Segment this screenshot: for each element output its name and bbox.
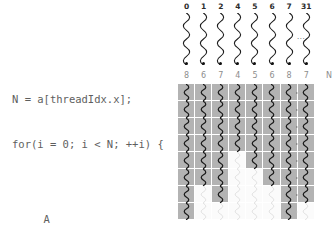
iteration-cell (178, 118, 195, 135)
iteration-cell (229, 135, 246, 152)
iteration-row (178, 203, 315, 220)
n-axis-label: N (320, 70, 335, 81)
iteration-cell (298, 169, 315, 186)
iteration-cell (246, 135, 263, 152)
iteration-row (178, 118, 315, 135)
iteration-cell (178, 186, 195, 203)
iteration-cell (195, 186, 212, 203)
iteration-cell (212, 152, 229, 169)
iteration-cell (212, 118, 229, 135)
wave-ellipsis-icon: ... (297, 34, 305, 41)
diagram-root: N = a[threadIdx.x]; for(i = 0; i < N; ++… (0, 0, 335, 233)
iteration-row (178, 152, 315, 169)
thread-strand-2 (212, 13, 229, 65)
thread-strand-5 (246, 13, 263, 65)
iteration-cell (229, 152, 246, 169)
iteration-grid (178, 84, 315, 220)
thread-strand-4 (229, 13, 246, 65)
iteration-cell (178, 101, 195, 118)
iteration-cell (246, 84, 263, 101)
iteration-cell (195, 169, 212, 186)
iteration-cell (298, 186, 315, 203)
iteration-cell (212, 203, 229, 220)
iteration-cell (281, 169, 298, 186)
iteration-cell (246, 186, 263, 203)
iteration-cell (298, 152, 315, 169)
iteration-cell (298, 203, 315, 220)
iteration-row (178, 135, 315, 152)
iteration-row (178, 101, 315, 118)
iteration-cell (212, 101, 229, 118)
iteration-cell (212, 135, 229, 152)
iteration-cell (281, 118, 298, 135)
iteration-cell (195, 84, 212, 101)
n-value-4: 4 (229, 70, 246, 81)
iteration-cell (229, 84, 246, 101)
iteration-cell (212, 84, 229, 101)
iteration-cell (263, 169, 280, 186)
code-line-1: for(i = 0; i < N; ++i) { (12, 137, 164, 152)
iteration-cell (229, 186, 246, 203)
iteration-cell (195, 203, 212, 220)
n-value-2: 7 (212, 70, 229, 81)
iteration-cell (298, 135, 315, 152)
iteration-cell (178, 169, 195, 186)
iteration-cell (263, 135, 280, 152)
iteration-cell (263, 186, 280, 203)
iteration-cell (178, 203, 195, 220)
iteration-cell (195, 101, 212, 118)
iteration-cell (263, 118, 280, 135)
iteration-cell (229, 118, 246, 135)
n-value-0: 8 (178, 70, 195, 81)
iteration-cell (281, 152, 298, 169)
n-value-31: 7 (298, 70, 315, 81)
iteration-cell (246, 152, 263, 169)
iteration-cell (298, 101, 315, 118)
iteration-cell (212, 186, 229, 203)
iteration-cell (178, 135, 195, 152)
thread-strand-0 (178, 13, 195, 65)
iteration-cell (263, 152, 280, 169)
iteration-cell (281, 203, 298, 220)
iteration-cell (281, 135, 298, 152)
n-value-1: 6 (195, 70, 212, 81)
iteration-cell (246, 169, 263, 186)
iteration-cell (195, 152, 212, 169)
iteration-row (178, 84, 315, 101)
iteration-cell (263, 203, 280, 220)
thread-n-row: 86745687 N (178, 68, 335, 82)
iteration-cell (298, 118, 315, 135)
iteration-cell (229, 169, 246, 186)
n-value-5: 5 (246, 70, 263, 81)
iteration-row (178, 169, 315, 186)
n-value-6: 6 (263, 70, 280, 81)
iteration-cell (229, 101, 246, 118)
iteration-row (178, 186, 315, 203)
iteration-cell (298, 84, 315, 101)
code-line-3: A (12, 212, 164, 227)
thread-strand-6 (263, 13, 280, 65)
thread-strand-7 (281, 13, 298, 65)
iteration-cell (178, 84, 195, 101)
code-line-0: N = a[threadIdx.x]; (12, 92, 164, 107)
code-block: N = a[threadIdx.x]; for(i = 0; i < N; ++… (12, 62, 164, 233)
iteration-cell (195, 118, 212, 135)
iteration-cell (246, 118, 263, 135)
iteration-cell (246, 203, 263, 220)
iteration-cell (178, 152, 195, 169)
iteration-cell (195, 135, 212, 152)
iteration-cell (212, 169, 229, 186)
iteration-cell (281, 84, 298, 101)
iteration-cell (281, 186, 298, 203)
iteration-cell (246, 101, 263, 118)
n-value-7: 8 (281, 70, 298, 81)
iteration-cell (263, 84, 280, 101)
iteration-cell (229, 203, 246, 220)
thread-wave-row (178, 13, 315, 65)
iteration-cell (281, 101, 298, 118)
thread-diagram: 012456731 ... 86745687 N (178, 0, 323, 233)
thread-strand-1 (195, 13, 212, 65)
iteration-cell (263, 101, 280, 118)
